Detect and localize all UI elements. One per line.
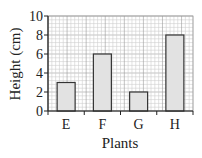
y-tick-8: 8 [36,28,43,43]
y-tick-0: 0 [36,104,43,119]
x-axis-label: Plants [102,135,139,151]
bar-chart: 0246810 EFGH Height (cm) Plants [0,0,202,158]
bar-e [57,83,75,112]
x-tick-labels: EFGH [62,117,180,132]
y-axis-label: Height (cm) [7,28,24,101]
bar-f [93,54,111,111]
bar-g [130,92,148,111]
x-tick-g: G [134,117,144,132]
y-tick-2: 2 [36,85,43,100]
bar-h [166,35,184,111]
y-tick-labels: 0246810 [29,9,43,119]
x-tick-h: H [170,117,180,132]
y-tick-6: 6 [36,47,43,62]
y-tick-10: 10 [29,9,43,24]
x-tick-e: E [62,117,71,132]
y-tick-4: 4 [36,66,43,81]
x-tick-f: F [98,117,106,132]
